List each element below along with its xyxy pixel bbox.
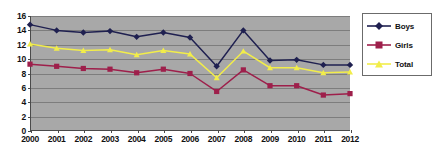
x-tick-mark bbox=[164, 130, 165, 133]
gridline bbox=[31, 88, 350, 89]
y-tick-mark bbox=[28, 102, 31, 103]
legend-item-girls: Girls bbox=[366, 38, 432, 52]
x-tick-label: 2005 bbox=[154, 134, 172, 144]
y-tick-label: 16 bbox=[0, 12, 26, 21]
y-tick-mark bbox=[28, 117, 31, 118]
gridline bbox=[31, 74, 350, 75]
gridline bbox=[31, 59, 350, 60]
x-tick-label: 2009 bbox=[261, 134, 279, 144]
gridline bbox=[31, 45, 350, 46]
y-tick-label: 2 bbox=[0, 112, 26, 121]
y-tick-label: 4 bbox=[0, 98, 26, 107]
gridline bbox=[31, 117, 350, 118]
y-tick-label: 10 bbox=[0, 55, 26, 64]
x-tick-label: 2010 bbox=[288, 134, 306, 144]
legend: Boys Girls Total bbox=[362, 13, 432, 76]
x-tick-mark bbox=[58, 130, 59, 133]
legend-item-boys: Boys bbox=[366, 19, 432, 33]
y-tick-mark bbox=[28, 16, 31, 17]
gridline bbox=[31, 30, 350, 31]
x-tick-mark bbox=[351, 130, 352, 133]
x-tick-label: 2004 bbox=[128, 134, 146, 144]
y-tick-mark bbox=[28, 45, 31, 46]
y-tick-label: 14 bbox=[0, 26, 26, 35]
x-tick-mark bbox=[324, 130, 325, 133]
legend-marker-square-icon bbox=[366, 39, 392, 51]
x-tick-mark bbox=[271, 130, 272, 133]
y-tick-mark bbox=[28, 59, 31, 60]
x-tick-label: 2012 bbox=[341, 134, 359, 144]
x-tick-label: 2006 bbox=[181, 134, 199, 144]
y-tick-mark bbox=[28, 74, 31, 75]
y-tick-label: 8 bbox=[0, 69, 26, 78]
x-tick-mark bbox=[111, 130, 112, 133]
x-tick-label: 2001 bbox=[48, 134, 66, 144]
x-tick-mark bbox=[84, 130, 85, 133]
legend-marker-diamond-icon bbox=[366, 20, 392, 32]
x-tick-label: 2002 bbox=[74, 134, 92, 144]
legend-label-girls: Girls bbox=[395, 41, 413, 50]
x-tick-label: 2000 bbox=[21, 134, 39, 144]
x-tick-label: 2011 bbox=[315, 134, 332, 144]
x-tick-mark bbox=[218, 130, 219, 133]
x-tick-mark bbox=[244, 130, 245, 133]
x-tick-mark bbox=[31, 130, 32, 133]
x-tick-label: 2007 bbox=[208, 134, 226, 144]
x-tick-label: 2003 bbox=[101, 134, 119, 144]
y-tick-mark bbox=[28, 30, 31, 31]
legend-marker-triangle-icon bbox=[366, 58, 392, 70]
y-tick-mark bbox=[28, 88, 31, 89]
y-tick-label: 12 bbox=[0, 41, 26, 50]
y-tick-label: 6 bbox=[0, 84, 26, 93]
gridline bbox=[31, 16, 350, 17]
x-tick-label: 2008 bbox=[234, 134, 252, 144]
gridline bbox=[31, 102, 350, 103]
line-chart: 0246810121416 20002001200220032004200520… bbox=[0, 0, 439, 161]
legend-item-total: Total bbox=[366, 57, 432, 71]
x-tick-mark bbox=[298, 130, 299, 133]
legend-label-boys: Boys bbox=[395, 22, 414, 31]
x-tick-mark bbox=[138, 130, 139, 133]
x-tick-mark bbox=[191, 130, 192, 133]
legend-label-total: Total bbox=[395, 60, 413, 69]
plot-area bbox=[30, 16, 350, 131]
